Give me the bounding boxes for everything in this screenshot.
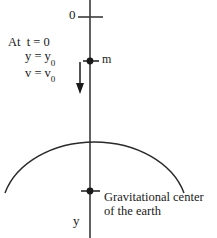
initial-conditions-block: At t = 0 y = y0 v = v0 bbox=[8, 35, 55, 82]
gravitational-center-caption-line2: of the earth bbox=[104, 204, 204, 218]
earth-surface-arc bbox=[5, 142, 184, 193]
velocity-arrow-icon bbox=[76, 62, 84, 94]
initial-time-equation: t = 0 bbox=[27, 35, 50, 49]
initial-position-eq: = bbox=[34, 49, 41, 63]
gravitational-center-caption: Gravitational center of the earth bbox=[104, 190, 204, 218]
mass-label: m bbox=[102, 53, 111, 66]
initial-velocity-line: v = v0 bbox=[25, 66, 55, 83]
origin-label: 0 bbox=[69, 8, 76, 23]
initial-position-lhs: y bbox=[25, 49, 31, 63]
initial-position-rhs: y bbox=[45, 49, 51, 63]
initial-velocity-rhs: v bbox=[45, 66, 51, 80]
initial-position-subscript: 0 bbox=[51, 58, 56, 68]
physics-diagram: 0 At t = 0 y = y0 v = v0 m Gravitational… bbox=[0, 0, 217, 238]
initial-conditions-prefix: At bbox=[8, 35, 21, 49]
initial-position-line: y = y0 bbox=[25, 49, 55, 66]
initial-time-line: At t = 0 bbox=[8, 35, 55, 49]
gravitational-center-caption-line1: Gravitational center bbox=[104, 190, 204, 204]
initial-velocity-subscript: 0 bbox=[51, 74, 56, 84]
y-axis-label: y bbox=[73, 214, 80, 229]
initial-velocity-lhs: v bbox=[25, 66, 31, 80]
initial-velocity-eq: = bbox=[34, 66, 41, 80]
